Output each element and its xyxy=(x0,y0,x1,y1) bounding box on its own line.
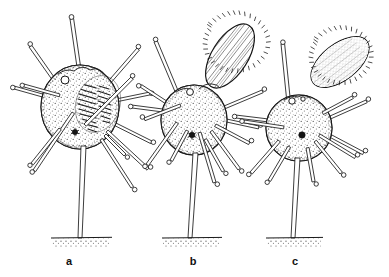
substrate-a-stipple xyxy=(52,239,110,247)
pore-b xyxy=(187,89,194,96)
substrate-c-stipple xyxy=(267,239,321,247)
substrate-b-stipple xyxy=(163,239,220,247)
scientific-illustration: a xyxy=(0,0,389,277)
specimen-label-c: c xyxy=(292,255,298,267)
substrate-c xyxy=(266,237,323,246)
specimen-label-a: a xyxy=(66,255,73,267)
nucleus-c xyxy=(299,132,305,138)
specimen-label-b: b xyxy=(190,255,197,267)
substrate-b xyxy=(162,237,222,246)
pore-a xyxy=(61,76,69,84)
substrate-a xyxy=(51,237,112,246)
pore-c xyxy=(289,98,295,104)
body-b xyxy=(161,84,227,155)
figure-canvas: a xyxy=(0,0,389,277)
pore-c-secondary xyxy=(301,97,305,101)
